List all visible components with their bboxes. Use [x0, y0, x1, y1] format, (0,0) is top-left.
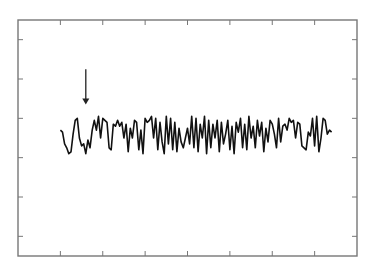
line-chart	[0, 0, 372, 269]
series-line-signal	[60, 116, 331, 153]
plot-frame	[18, 20, 357, 256]
arrow-head-icon	[82, 99, 89, 105]
x-axis-ticks-top	[60, 20, 314, 25]
series-layer	[60, 116, 331, 153]
y-axis-ticks-left	[18, 40, 23, 237]
x-axis-ticks	[60, 251, 314, 256]
annotation-layer	[82, 69, 89, 104]
y-axis-ticks-right	[352, 40, 357, 237]
